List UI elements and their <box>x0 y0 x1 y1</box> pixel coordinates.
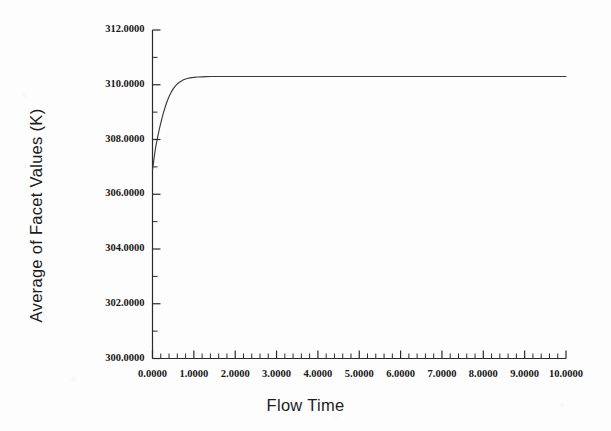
y-tick-label: 302.0000 <box>83 297 145 308</box>
y-tick-label: 308.0000 <box>83 133 145 144</box>
y-axis-ticks <box>153 30 161 359</box>
y-tick-label: 312.0000 <box>83 23 145 34</box>
y-tick-label: 304.0000 <box>83 242 145 253</box>
x-tick-label: 10.0000 <box>540 368 592 379</box>
data-series-group <box>153 77 567 170</box>
axes <box>153 30 567 359</box>
plot-area-svg <box>0 0 611 431</box>
data-line-average-of-facet-values <box>153 77 567 170</box>
y-tick-label: 306.0000 <box>83 187 145 198</box>
y-tick-label: 300.0000 <box>83 352 145 363</box>
chart-figure: 300.0000302.0000304.0000306.0000308.0000… <box>0 0 611 431</box>
x-axis-title: Flow Time <box>0 396 611 415</box>
x-axis-ticks <box>153 351 567 359</box>
y-tick-label: 310.0000 <box>83 78 145 89</box>
